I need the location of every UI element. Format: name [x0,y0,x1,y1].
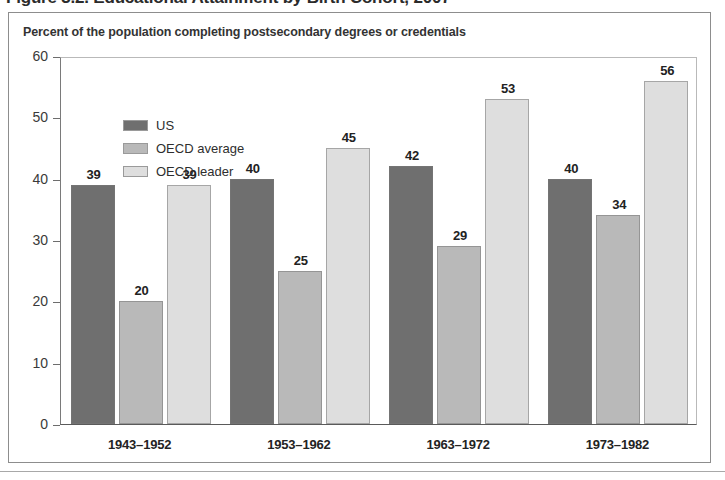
bar-value-label: 40 [549,161,593,176]
legend-item-label: OECD average [156,141,244,156]
legend-item[interactable]: OECD average [123,137,244,160]
bar-value-label: 29 [438,228,482,243]
bar[interactable]: 56 [644,81,688,424]
y-axis-tick-label: 0 [40,416,48,432]
bar-group: 403456 [548,58,688,424]
bar[interactable]: 39 [167,185,211,424]
chart-subtitle: Percent of the population completing pos… [23,25,466,39]
bar-value-label: 42 [390,148,434,163]
bar[interactable]: 40 [548,179,592,424]
plot-area: 392039402545422953403456 USOECD averageO… [60,57,697,425]
y-axis-tick-mark [53,425,60,426]
bar-value-label: 34 [597,197,641,212]
bar[interactable]: 45 [326,148,370,424]
y-axis-tick-label: 30 [32,232,48,248]
bar-value-label: 25 [279,253,323,268]
bar-value-label: 53 [486,81,530,96]
x-axis-tick-label: 1943–1952 [60,437,219,452]
legend-item-label: US [156,118,174,133]
figure-panel: Percent of the population completing pos… [8,12,711,463]
y-axis: 0102030405060 [9,57,60,425]
legend-item[interactable]: US [123,114,244,137]
x-axis-tick-label: 1963–1972 [379,437,538,452]
bar[interactable]: 53 [485,99,529,424]
bar-value-label: 56 [645,63,689,78]
bar[interactable]: 20 [119,301,163,424]
bar-value-label: 45 [327,130,371,145]
y-axis-tick-mark [53,57,60,58]
legend-swatch-icon [123,166,148,177]
bars-layer: 392039402545422953403456 [61,58,696,424]
y-axis-tick-mark [53,302,60,303]
bar-value-label: 20 [120,283,164,298]
x-axis-tick-label: 1953–1962 [219,437,378,452]
legend-swatch-icon [123,143,148,154]
bar[interactable]: 29 [437,246,481,424]
bar[interactable]: 34 [596,215,640,424]
y-axis-tick-mark [53,118,60,119]
y-axis-tick-label: 50 [32,109,48,125]
bar[interactable]: 40 [230,179,274,424]
bar-group: 402545 [230,58,370,424]
y-axis-tick-mark [53,364,60,365]
y-axis-tick-label: 10 [32,355,48,371]
bar-value-label: 39 [72,167,116,182]
bar[interactable]: 39 [71,185,115,424]
legend-item[interactable]: OECD leader [123,160,244,183]
x-axis: 1943–19521953–19621963–19721973–1982 [60,429,697,459]
legend-item-label: OECD leader [156,164,233,179]
bar[interactable]: 25 [278,271,322,424]
legend-swatch-icon [123,120,148,131]
y-axis-tick-label: 20 [32,293,48,309]
x-axis-tick-label: 1973–1982 [538,437,697,452]
chart-legend: USOECD averageOECD leader [123,114,244,183]
y-axis-tick-mark [53,241,60,242]
bottom-divider [0,471,725,472]
bar-group: 392039 [71,58,211,424]
figure-title: Figure 3.2. Educational Attainment by Bi… [6,0,450,8]
y-axis-tick-mark [53,180,60,181]
y-axis-tick-label: 40 [32,171,48,187]
y-axis-tick-label: 60 [32,48,48,64]
bar-group: 422953 [389,58,529,424]
bar[interactable]: 42 [389,166,433,424]
